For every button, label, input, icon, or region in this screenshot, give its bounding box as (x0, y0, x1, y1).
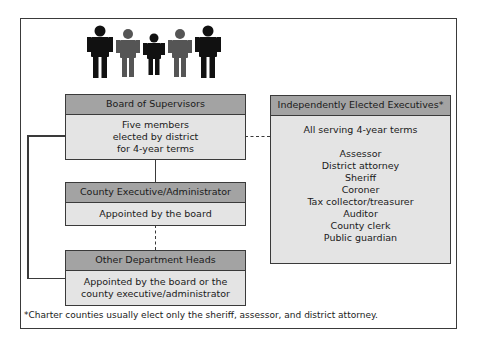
office-item: District attorney (271, 160, 450, 172)
departments-line: Appointed by the board or the (66, 276, 245, 288)
board-of-supervisors-box: Board of Supervisors Five members electe… (65, 94, 246, 160)
office-item: Auditor (271, 208, 450, 220)
left-connector-top (27, 135, 65, 137)
other-department-heads-box: Other Department Heads Appointed by the … (65, 250, 246, 306)
executive-line: Appointed by the board (66, 208, 245, 220)
board-of-supervisors-title: Board of Supervisors (66, 95, 245, 115)
footnote: *Charter counties usually elect only the… (24, 310, 378, 320)
independently-elected-title: Independently Elected Executives* (271, 96, 450, 116)
office-item: County clerk (271, 220, 450, 232)
county-executive-box: County Executive/Administrator Appointed… (65, 182, 246, 226)
office-item: Coroner (271, 184, 450, 196)
other-department-heads-title: Other Department Heads (66, 251, 245, 271)
office-item: Assessor (271, 148, 450, 160)
office-item: Sheriff (271, 172, 450, 184)
left-connector-bottom (27, 278, 65, 280)
board-line: for 4-year terms (66, 143, 245, 155)
independently-elected-box: Independently Elected Executives* All se… (270, 95, 451, 264)
county-executive-title: County Executive/Administrator (66, 183, 245, 203)
departments-line: county executive/administrator (66, 288, 245, 300)
office-item: Tax collector/treasurer (271, 196, 450, 208)
board-to-executive-connector (155, 159, 157, 182)
executive-to-departments-connector (155, 225, 156, 250)
board-line: elected by district (66, 131, 245, 143)
elected-intro: All serving 4-year terms (271, 124, 450, 136)
board-to-elected-connector (245, 136, 270, 137)
office-item: Public guardian (271, 232, 450, 244)
board-line: Five members (66, 119, 245, 131)
people-group-icon (86, 25, 226, 81)
left-connector-vertical (27, 135, 29, 279)
